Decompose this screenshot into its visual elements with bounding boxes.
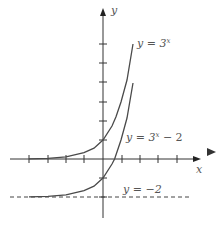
curve2-label: y = 3x − 2 [125,131,183,144]
y-axis-label: y [110,4,118,17]
curve-3-pow-x [29,44,133,159]
play-triangle-icon [207,148,216,156]
x-axis-label: x [196,163,203,176]
x-axis-arrow-icon [193,156,201,162]
asymptote-label: y = −2 [122,183,162,196]
y-axis-arrow-icon [100,8,106,16]
curve1-label: y = 3x [136,37,170,50]
exponential-graph: y x y = 3x y = 3x − 2 y = −2 [0,0,217,225]
curve-3-pow-x-minus-2 [29,83,133,197]
